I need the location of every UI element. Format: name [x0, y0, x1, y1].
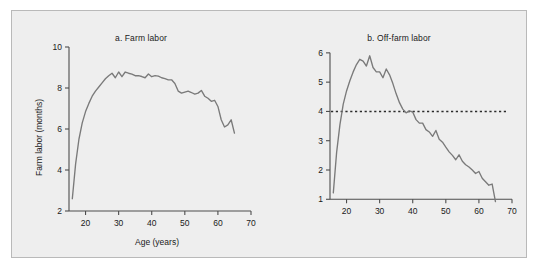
svg-text:60: 60: [213, 218, 223, 228]
svg-text:20: 20: [342, 206, 352, 216]
svg-text:70: 70: [246, 218, 256, 228]
series-path: [333, 56, 495, 202]
svg-text:50: 50: [441, 206, 451, 216]
svg-text:40: 40: [408, 206, 418, 216]
figure-container: a. Farm labor Farm labor (months) Age (y…: [11, 10, 527, 258]
svg-text:4: 4: [57, 165, 62, 175]
svg-text:6: 6: [57, 124, 62, 134]
svg-text:10: 10: [53, 42, 63, 52]
svg-text:60: 60: [474, 206, 484, 216]
svg-text:4: 4: [318, 106, 323, 116]
panel-a-plot: 246810203040506070: [12, 11, 270, 259]
svg-text:50: 50: [180, 218, 190, 228]
chart-panel-farm-labor: a. Farm labor Farm labor (months) Age (y…: [12, 11, 270, 259]
svg-text:2: 2: [57, 206, 62, 216]
svg-text:5: 5: [318, 77, 323, 87]
svg-text:30: 30: [375, 206, 385, 216]
chart-panel-offfarm-labor: b. Off-farm labor Off-farm labor (months…: [270, 11, 528, 259]
series-path: [72, 72, 234, 199]
svg-text:6: 6: [318, 48, 323, 58]
svg-text:70: 70: [507, 206, 517, 216]
svg-text:3: 3: [318, 136, 323, 146]
svg-text:1: 1: [318, 194, 323, 204]
svg-text:40: 40: [147, 218, 157, 228]
panel-b-plot: 123456203040506070: [270, 11, 528, 259]
svg-text:20: 20: [81, 218, 91, 228]
svg-text:8: 8: [57, 83, 62, 93]
svg-text:2: 2: [318, 165, 323, 175]
svg-text:30: 30: [114, 218, 124, 228]
